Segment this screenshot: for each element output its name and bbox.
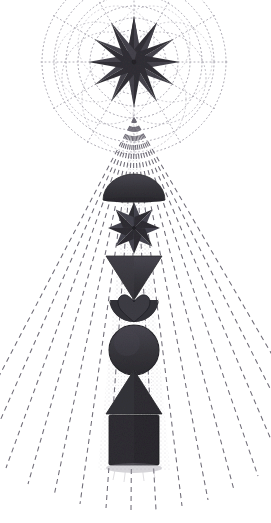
square-symbol: [109, 415, 159, 465]
eight-pointed-star-symbol: [108, 202, 160, 254]
circle-symbol: [109, 325, 159, 375]
artwork-canvas: Radiant Star and Stacked Symbol Column: [0, 0, 271, 523]
illustration-svg: [0, 0, 271, 523]
